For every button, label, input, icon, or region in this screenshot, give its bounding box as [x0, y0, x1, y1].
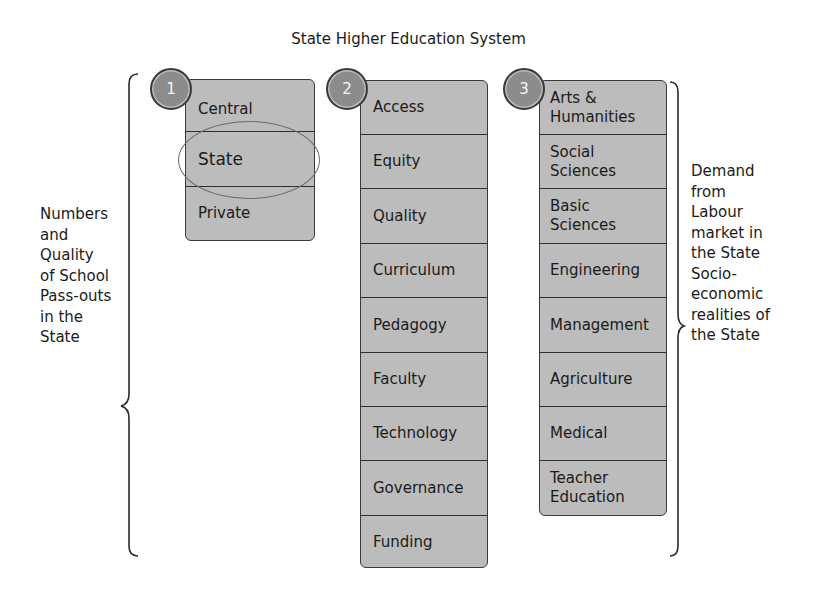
column-3-item-basic-sciences: Basic Sciences — [540, 189, 666, 244]
diagram-title: State Higher Education System — [0, 30, 817, 48]
item-line: Social — [550, 143, 594, 162]
column-2-item-funding: Funding — [361, 516, 487, 568]
item-line: Arts & — [550, 89, 597, 108]
right-label-line: Labour — [691, 202, 770, 223]
left-label-line: State — [40, 327, 111, 348]
right-label: Demand from Labour market in the State S… — [691, 161, 770, 346]
right-label-line: Demand — [691, 161, 770, 182]
right-label-line: market in — [691, 223, 770, 244]
column-2-item-pedagogy: Pedagogy — [361, 298, 487, 353]
left-brace — [124, 72, 144, 558]
column-1-item-private: Private — [186, 187, 314, 240]
item-line: Sciences — [550, 162, 616, 181]
left-label: Numbers and Quality of School Pass-outs … — [40, 204, 111, 348]
column-3-item-arts-humanities: Arts & Humanities — [540, 81, 666, 135]
left-label-line: Numbers — [40, 204, 111, 225]
item-line: Basic — [550, 197, 590, 216]
column-1-item-state: State — [186, 132, 314, 187]
right-label-line: economic — [691, 284, 770, 305]
column-2-badge: 2 — [326, 68, 368, 110]
column-3-item-medical: Medical — [540, 407, 666, 461]
column-2-item-governance: Governance — [361, 461, 487, 516]
column-2-item-curriculum: Curriculum — [361, 244, 487, 298]
item-line: Sciences — [550, 216, 616, 235]
item-line: Education — [550, 488, 625, 507]
column-2-item-technology: Technology — [361, 407, 487, 461]
column-2-item-quality: Quality — [361, 189, 487, 244]
column-3-item-engineering: Engineering — [540, 244, 666, 298]
column-3-box: Arts & Humanities Social Sciences Basic … — [539, 80, 667, 516]
right-label-line: the State — [691, 243, 770, 264]
column-3-item-agriculture: Agriculture — [540, 353, 666, 407]
column-2-box: Access Equity Quality Curriculum Pedagog… — [360, 80, 488, 568]
right-label-line: realities of — [691, 305, 770, 326]
column-1-badge: 1 — [150, 68, 192, 110]
column-2-item-faculty: Faculty — [361, 353, 487, 407]
column-3-badge: 3 — [503, 68, 545, 110]
column-3-item-social-sciences: Social Sciences — [540, 135, 666, 189]
left-label-line: Pass-outs — [40, 286, 111, 307]
right-brace — [668, 80, 688, 560]
left-label-line: in the — [40, 307, 111, 328]
column-1-box: Central State Private — [185, 79, 315, 241]
item-line: Humanities — [550, 108, 635, 127]
item-line: Teacher — [550, 469, 608, 488]
right-label-line: the State — [691, 325, 770, 346]
right-label-line: from — [691, 182, 770, 203]
column-2-item-equity: Equity — [361, 135, 487, 189]
column-3-item-teacher-education: Teacher Education — [540, 461, 666, 514]
left-label-line: and — [40, 225, 111, 246]
left-label-line: Quality — [40, 245, 111, 266]
right-label-line: Socio- — [691, 264, 770, 285]
column-3-item-management: Management — [540, 298, 666, 353]
column-2-item-access: Access — [361, 81, 487, 135]
left-label-line: of School — [40, 266, 111, 287]
column-1-item-central: Central — [186, 80, 314, 132]
